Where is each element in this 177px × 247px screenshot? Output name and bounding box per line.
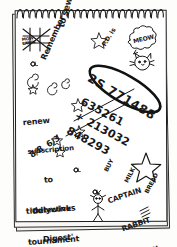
subscription-line-1: renew [23,114,72,128]
tiddlywinks-note: tiddlywinks tournament Saturday! [24,182,86,247]
captain-line-3: IS ON [126,237,177,247]
captain-line-2: RABBIT [116,208,170,235]
notepad-page: MOW LAWN to sew mas of Padded Striped Re… [0,0,177,247]
tiddlywinks-line-2: tournament [28,234,83,247]
tiddlywinks-line-1: tiddlywinks [26,203,81,217]
grocery-item-1: BUY [102,150,119,173]
spiral-binding-icon [14,4,166,20]
captain-line-1: CAPTAIN [107,180,161,207]
